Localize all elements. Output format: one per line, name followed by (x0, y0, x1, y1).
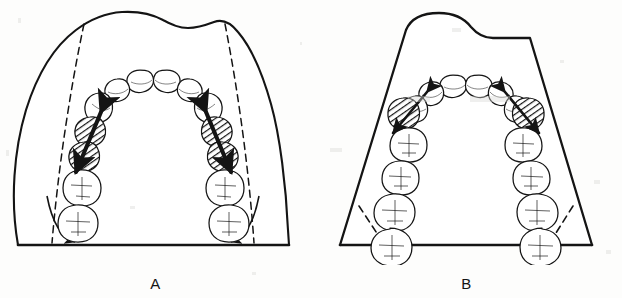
tooth-central-incisor-left (127, 70, 154, 93)
tooth-molar-4-right (520, 228, 561, 265)
tooth-molar-1-left (390, 128, 427, 162)
cast-drawing-b (311, 0, 622, 265)
tooth-molar-1-right (206, 170, 244, 206)
tooth-molar-3-right (517, 194, 558, 231)
tooth-molar-2-right (513, 161, 550, 195)
tooth-molar-2-left (58, 205, 98, 242)
tooth-molar-1-right (505, 128, 542, 162)
tooth-molar-2-left (382, 161, 419, 195)
tooth-central-incisor-right (153, 70, 180, 93)
tooth-molar-2-right (209, 205, 249, 242)
panel-b: B (311, 0, 622, 298)
cast-outline-a (14, 12, 289, 245)
tooth-molar-4-left (371, 228, 412, 265)
cast-drawing-a (0, 0, 311, 265)
tooth-premolar-1-right-hatched (513, 98, 545, 130)
figure-root: A (0, 0, 622, 298)
panel-label-a: A (0, 275, 311, 292)
tooth-premolar-1-left-hatched (388, 98, 420, 130)
tooth-molar-1-left (63, 170, 101, 206)
panel-label-b: B (311, 275, 622, 292)
panel-a: A (0, 0, 311, 298)
tooth-molar-3-left (374, 194, 415, 231)
